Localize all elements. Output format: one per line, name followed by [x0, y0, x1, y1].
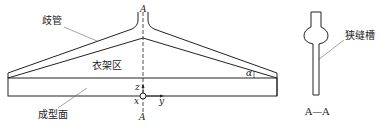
- manifold-area-label: 衣架区: [92, 59, 122, 71]
- axis-y-label: y: [158, 96, 165, 106]
- slit-groove-label: 狭缝槽: [345, 29, 375, 41]
- axis-x-label: x: [134, 96, 139, 106]
- manifold-inner-edge: [8, 38, 277, 78]
- coat-hanger-die-diagram: α z x y A A 歧管 衣架区 成型面 狭缝槽 A—A: [0, 0, 379, 127]
- section-view-a-a: [304, 12, 328, 95]
- section-mark-top: A: [139, 4, 147, 14]
- z-arrowhead-icon: [142, 84, 145, 88]
- origin-icon: [140, 93, 146, 99]
- section-mark-bottom: A: [138, 112, 146, 122]
- angle-label: α: [246, 68, 252, 78]
- slit-cross-section: [304, 12, 328, 95]
- axis-z-label: z: [134, 82, 140, 92]
- branch-pipe-label: 歧管: [42, 14, 62, 26]
- branch-pipe-leader: [64, 27, 97, 41]
- section-title: A—A: [304, 106, 330, 117]
- manifold-outer-right-edge: [148, 12, 277, 73]
- forming-surface-label: 成型面: [38, 108, 68, 120]
- forming-surface-leader: [58, 88, 87, 108]
